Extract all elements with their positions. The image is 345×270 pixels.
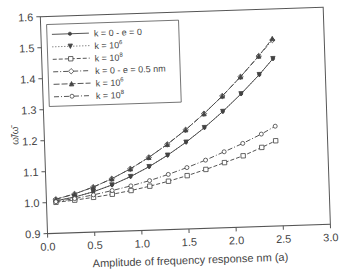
x-tick-label: 1.0 (134, 237, 150, 250)
legend-label: k = 0 - e = 0 (94, 27, 142, 39)
line-chart: 0.91.01.11.21.31.41.51.6 0.00.51.01.52.0… (0, 0, 345, 270)
square-marker (241, 154, 246, 159)
chart-container: 0.91.01.11.21.31.41.51.6 0.00.51.01.52.0… (0, 0, 345, 270)
square-marker (148, 184, 153, 189)
y-tick-label: 1.4 (20, 73, 36, 86)
circle-marker (259, 132, 263, 136)
circle-marker (54, 200, 58, 204)
y-tick-label: 1.5 (19, 42, 35, 55)
y-axis-ticks: 0.91.01.11.21.31.41.51.6 (18, 11, 48, 241)
circle-marker (91, 193, 95, 197)
x-axis-ticks: 0.00.51.01.52.02.53.0 (40, 224, 339, 253)
circle-marker (185, 166, 189, 170)
series-6 (52, 124, 280, 204)
legend: k = 0 - e = 0k = 106k = 108k = 0 - e = 0… (47, 20, 182, 106)
circle-marker (273, 124, 277, 128)
legend-label: k = 108 (96, 89, 125, 101)
circle-marker (203, 158, 207, 162)
x-tick-label: 2.0 (229, 234, 245, 247)
y-tick-label: 1.2 (22, 135, 38, 148)
square-marker (68, 56, 73, 61)
series-3 (52, 138, 280, 204)
circle-marker (73, 197, 77, 201)
square-marker (204, 167, 209, 172)
x-axis-label: Amplitude of frequency response nm (a) (93, 251, 289, 269)
dot-marker (68, 32, 71, 35)
y-tick-label: 1.0 (24, 197, 40, 210)
square-marker (222, 160, 227, 165)
x-tick-label: 0.0 (40, 240, 56, 253)
y-tick-label: 0.9 (25, 228, 41, 241)
circle-marker (166, 172, 170, 176)
legend-label: k = 106 (94, 39, 123, 51)
circle-marker (70, 94, 74, 98)
square-marker (273, 138, 278, 143)
circle-marker (129, 184, 133, 188)
legend-label: k = 108 (95, 52, 124, 64)
square-marker (185, 173, 190, 178)
y-axis-label: ω̃/ω̄ (9, 124, 21, 145)
series-line (54, 126, 278, 202)
circle-marker (222, 150, 226, 154)
y-tick-label: 1.6 (18, 11, 34, 24)
circle-marker (148, 179, 152, 183)
x-tick-label: 2.5 (276, 233, 292, 246)
square-marker (129, 188, 134, 193)
circle-marker (110, 188, 114, 192)
square-marker (259, 145, 264, 150)
y-tick-label: 1.3 (21, 104, 37, 117)
x-tick-label: 3.0 (323, 231, 339, 244)
square-marker (166, 179, 171, 184)
legend-label: k = 106 (95, 76, 124, 88)
x-tick-label: 1.5 (182, 236, 198, 249)
y-tick-label: 1.1 (23, 166, 39, 179)
x-tick-label: 0.5 (87, 239, 103, 252)
circle-marker (241, 141, 245, 145)
